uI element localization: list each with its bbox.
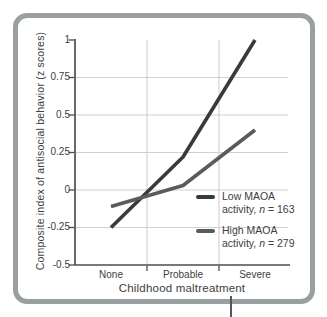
x-category-label: Probable [148,269,218,281]
figure: 1 0.75 0.5 0.25 0 -0.25 -0.5 None Probab… [0,0,327,317]
legend-label-line2: activity, n = 279 [222,237,295,250]
x-category-label: None [76,269,146,281]
legend-swatch-high-maoa [196,229,215,233]
legend-label-line1: High MAOA [222,224,295,237]
callout-line [230,296,232,317]
legend-label-line1: Low MAOA [222,190,295,203]
legend-swatch-low-maoa [196,195,215,199]
legend-item-low-maoa: Low MAOA activity, n = 163 [196,190,295,216]
legend-item-high-maoa: High MAOA activity, n = 279 [196,224,295,250]
x-axis-title: Childhood maltreatment [82,282,282,294]
legend-label-low-maoa: Low MAOA activity, n = 163 [222,190,295,216]
legend-label-line2: activity, n = 163 [222,203,295,216]
x-category-label: Severe [220,269,290,281]
legend: Low MAOA activity, n = 163 High MAOA act… [196,190,295,258]
legend-label-high-maoa: High MAOA activity, n = 279 [222,224,295,250]
y-axis-title: Composite index of antisocial behavior (… [34,32,46,271]
